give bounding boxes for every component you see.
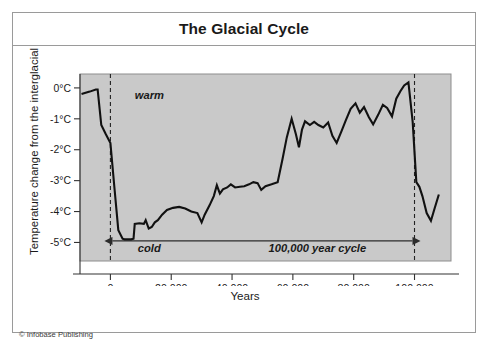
y-tick-label: -3°C	[50, 175, 71, 186]
x-tick-label: 100,000	[395, 282, 433, 286]
annotation-label: warm	[135, 89, 164, 101]
x-tick-label: 40,000	[216, 282, 249, 286]
y-axis-ticks: 0°C-1°C-2°C-3°C-4°C-5°C	[50, 83, 80, 249]
y-tick-label: 0°C	[54, 83, 72, 94]
x-axis-title: Years	[13, 289, 477, 302]
title-bar: The Glacial Cycle	[13, 13, 475, 46]
annotation-label: cold	[138, 242, 162, 254]
x-tick-label: 80,000	[337, 282, 370, 286]
copyright-credit: © Infobase Publishing	[19, 330, 93, 339]
y-tick-label: -4°C	[50, 206, 71, 217]
plot-wrapper: Temperature change from the interglacial…	[13, 46, 475, 334]
x-tick-label: 0	[107, 282, 113, 286]
figure-panel: The Glacial Cycle Temperature change fro…	[12, 12, 476, 333]
x-tick-label: 20,000	[155, 282, 188, 286]
y-axis-title: Temperature change from the interglacial	[28, 55, 40, 255]
y-tick-label: -2°C	[50, 144, 71, 155]
x-tick-label: 60,000	[277, 282, 310, 286]
y-tick-label: -1°C	[50, 114, 71, 125]
x-axis-ticks: 020,00040,00060,00080,000100,000	[107, 274, 433, 286]
page-title: The Glacial Cycle	[179, 20, 309, 38]
line-chart: 0°C-1°C-2°C-3°C-4°C-5°C 020,00040,00060,…	[13, 46, 477, 286]
annotation-label: 100,000 year cycle	[269, 242, 367, 254]
y-tick-label: -5°C	[50, 237, 71, 248]
